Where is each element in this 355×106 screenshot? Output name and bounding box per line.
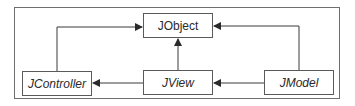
node-jview: JView <box>143 70 213 95</box>
node-label: JObject <box>158 19 199 33</box>
node-jmodel: JModel <box>264 70 334 95</box>
node-label: JView <box>162 76 194 90</box>
edge-jcontroller-jobject <box>57 27 142 71</box>
node-jobject: JObject <box>143 13 213 38</box>
node-jcontroller: JController <box>22 71 92 96</box>
node-label: JController <box>28 77 86 91</box>
edge-jmodel-jobject <box>214 26 299 70</box>
node-label: JModel <box>280 76 319 90</box>
